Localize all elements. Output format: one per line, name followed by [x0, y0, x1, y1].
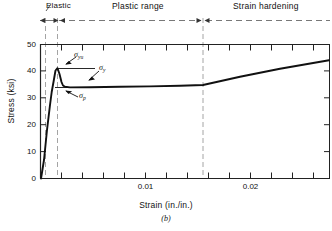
annotation-sigma-p: σp [79, 92, 86, 102]
y-axis-title: Stress (ksi) [6, 58, 16, 144]
arrowhead-right-plastic [197, 18, 202, 23]
y-tick-label-20: 20 [18, 121, 36, 129]
x-axis-ticks-bottom [62, 173, 314, 179]
stress-strain-figure: Elastic Plastic range Strain hardening σ… [0, 0, 332, 231]
annotation-sigma-yu: σyu [74, 51, 83, 61]
region-label-strain-hardening: Strain hardening [233, 2, 299, 11]
figure-caption: (b) [0, 214, 332, 223]
sigma-yu-subscript: yu [78, 54, 83, 60]
y-tick-label-30: 30 [18, 94, 36, 102]
y-tick-label-40: 40 [18, 67, 36, 75]
y-tick-label-0: 0 [18, 175, 36, 183]
stress-strain-plot-svg [0, 0, 332, 231]
region-extent-arrows [40, 18, 330, 23]
x-tick-label-0.02: 0.02 [234, 183, 268, 191]
y-tick-label-50: 50 [18, 41, 36, 49]
sigma-y-subscript: y [103, 67, 105, 73]
region-label-elastic: Elastic [46, 2, 71, 10]
y-tick-label-10: 10 [18, 148, 36, 156]
plot-frame [41, 44, 331, 179]
arrowhead-left-hardening [205, 18, 210, 23]
right-axis-ticks [324, 71, 330, 152]
stress-strain-curve [41, 60, 329, 178]
x-axis-ticks-top [62, 45, 314, 51]
arrowhead-left-elastic [40, 18, 45, 23]
sigma-p-subscript: p [83, 95, 86, 101]
arrowhead-sigma-yu [65, 61, 72, 65]
arrowhead-sigma-y [88, 77, 95, 81]
x-axis-title: Strain (in./in.) [0, 200, 332, 210]
x-tick-label-0.01: 0.01 [129, 183, 163, 191]
annotation-leaders [55, 57, 99, 97]
arrowhead-left-plastic [60, 18, 65, 23]
annotation-sigma-y: σy [99, 64, 105, 74]
region-label-plastic-range: Plastic range [112, 2, 164, 11]
region-divider-lines [46, 18, 204, 178]
